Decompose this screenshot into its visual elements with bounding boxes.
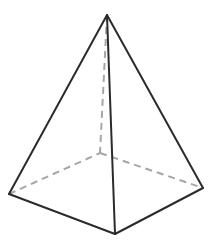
visible-edge-apex-base_left [9,15,107,194]
visible-edge-base_left-base_front [9,194,115,234]
hidden-edge-apex-base_back [100,15,107,153]
hidden-edges [9,15,203,194]
hidden-edge-base_left-base_back [9,153,100,194]
visible-edges [9,15,203,234]
visible-edge-apex-base_right [107,15,203,188]
visible-edge-apex-base_front [107,15,115,234]
pyramid-diagram [0,0,217,249]
visible-edge-base_front-base_right [115,188,203,234]
